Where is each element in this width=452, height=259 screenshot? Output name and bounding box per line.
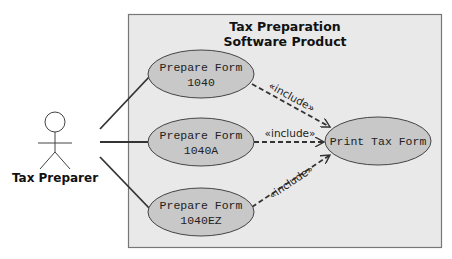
use-case-prepare-form-1040ez[interactable]: Prepare Form 1040EZ bbox=[148, 188, 254, 236]
use-case-label-line2: 1040A bbox=[184, 144, 219, 157]
use-case-label-line1: Prepare Form bbox=[160, 199, 243, 212]
use-case-label-line1: Prepare Form bbox=[160, 129, 243, 142]
use-case-diagram: Tax Preparation Software Product Tax Pre… bbox=[0, 0, 452, 259]
actor-tax-preparer[interactable]: Tax Preparer bbox=[12, 112, 98, 185]
use-case-prepare-form-1040[interactable]: Prepare Form 1040 bbox=[148, 50, 254, 98]
use-case-label-line1: Prepare Form bbox=[160, 61, 243, 74]
actor-label: Tax Preparer bbox=[12, 171, 98, 185]
use-case-label: Print Tax Form bbox=[330, 135, 427, 148]
system-title-line2: Software Product bbox=[223, 34, 346, 49]
system-title-line1: Tax Preparation bbox=[229, 19, 340, 34]
use-case-prepare-form-1040a[interactable]: Prepare Form 1040A bbox=[148, 118, 254, 166]
include-label-1040a: «include» bbox=[265, 127, 316, 139]
use-case-print-tax-form[interactable]: Print Tax Form bbox=[325, 117, 431, 165]
use-case-label-line2: 1040 bbox=[187, 76, 215, 89]
use-case-label-line2: 1040EZ bbox=[180, 214, 222, 227]
stick-figure-icon bbox=[38, 112, 72, 169]
